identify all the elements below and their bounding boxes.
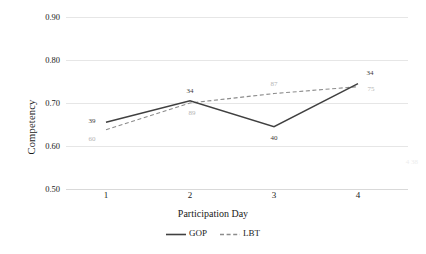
edge-artifact: 4 38 <box>406 158 418 166</box>
legend-label-gop: GOP <box>189 228 207 238</box>
legend-swatch-gop <box>166 230 186 237</box>
legend-swatch-lbt <box>220 230 240 237</box>
chart-container: Competency 0.90 0.80 0.70 0.60 0.50 1 2 … <box>0 0 426 254</box>
point-label-gop-day3: 40 <box>271 134 278 142</box>
legend-item-lbt[interactable]: LBT <box>220 228 260 238</box>
legend-label-lbt: LBT <box>243 228 260 238</box>
point-label-lbt-day3: 87 <box>271 80 278 88</box>
point-label-gop-day2: 34 <box>187 87 194 95</box>
point-label-lbt-day1: 60 <box>89 135 96 143</box>
x-axis-title: Participation Day <box>0 208 426 219</box>
legend-item-gop[interactable]: GOP <box>166 228 207 238</box>
point-label-gop-day4: 34 <box>367 69 374 77</box>
point-label-lbt-day4: 75 <box>368 85 375 93</box>
point-label-lbt-day2: 89 <box>189 109 196 117</box>
chart-legend: GOP LBT <box>0 228 426 238</box>
point-label-gop-day1: 39 <box>89 117 96 125</box>
series-line-lbt <box>106 87 358 130</box>
